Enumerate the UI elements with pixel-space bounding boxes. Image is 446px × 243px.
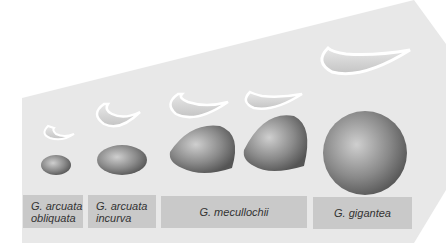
species-label-gigantea: G. gigantea bbox=[313, 197, 412, 229]
species-label-mecullochii: G. mecullochii bbox=[161, 196, 307, 228]
figure: G. arcuata obliquata G. arcuata incurva … bbox=[0, 0, 446, 243]
species-label-arcuata-obliquata: G. arcuata obliquata bbox=[23, 195, 83, 228]
shell-icon-2 bbox=[97, 145, 147, 175]
species-label-arcuata-incurva: G. arcuata incurva bbox=[88, 195, 156, 228]
shell-icon-1 bbox=[41, 155, 71, 175]
shell-icon-5 bbox=[323, 111, 407, 195]
